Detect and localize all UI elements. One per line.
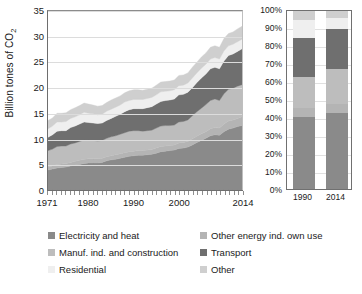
area-chart-x-tick (74, 191, 75, 195)
legend-swatch-icon-electricity-and-heat (48, 232, 55, 239)
percent-chart-y-tick-100: 100% (260, 5, 282, 15)
area-chart-x-tick (102, 191, 103, 195)
legend-column-right: Other energy ind. own useTransportOther (200, 228, 360, 279)
legend-label-other: Other (211, 264, 235, 275)
area-chart-x-tick (184, 191, 185, 195)
area-chart-plot-area (47, 10, 243, 190)
legend-label-electricity-and-heat: Electricity and heat (59, 230, 139, 241)
area-chart-gridline (48, 37, 242, 38)
percent-chart-x-tick-label-1990: 1990 (293, 192, 312, 202)
area-chart-y-axis-title: Billion tones of CO2 (4, 8, 18, 138)
area-chart-x-tick-label-1971: 1971 (36, 197, 57, 208)
legend-item-other-energy-ind-own-use[interactable]: Other energy ind. own use (200, 228, 360, 243)
legend-label-residential: Residential (59, 264, 106, 275)
area-chart-x-tick (52, 191, 53, 195)
area-chart-x-tick-labels: 19711980199020002014 (20, 197, 270, 211)
legend-item-other[interactable]: Other (200, 262, 360, 277)
percent-chart-panel: 0%10%20%30%40%50%60%70%80%90%100% 199020… (250, 0, 362, 218)
area-chart-y-tick-30: 30 (33, 30, 44, 41)
area-chart-x-tick (175, 191, 176, 195)
area-chart-x-tick (197, 191, 198, 195)
legend-item-residential[interactable]: Residential (48, 262, 198, 277)
area-chart-x-tick (179, 191, 180, 195)
percent-chart-x-tick-label-2014: 2014 (326, 192, 345, 202)
percent-chart-y-tick-labels: 0%10%20%30%40%50%60%70%80%90%100% (250, 10, 282, 190)
percent-chart-plot-area (286, 10, 352, 190)
area-chart-gridline (48, 140, 242, 141)
area-chart-x-tick (124, 191, 125, 195)
legend-swatch-icon-manuf-ind-and-construction (48, 249, 55, 256)
area-chart-x-tick (56, 191, 57, 195)
area-chart-y-tick-15: 15 (33, 107, 44, 118)
area-chart-gridline (48, 11, 242, 12)
area-chart-y-axis-title-subscript: 2 (9, 29, 18, 33)
area-chart-y-tick-35: 35 (33, 5, 44, 16)
percent-bar-1990 (293, 10, 315, 189)
area-chart-x-tick (211, 191, 212, 195)
percent-bar-segment-other (293, 10, 315, 20)
area-chart-x-tick (143, 191, 144, 195)
area-chart-x-tick (161, 191, 162, 195)
legend-label-transport: Transport (211, 247, 251, 258)
area-chart-x-tick (202, 191, 203, 195)
area-chart-x-tick-label-1980: 1980 (77, 197, 98, 208)
area-chart-x-tick (83, 191, 84, 195)
area-chart-x-tick (106, 191, 107, 195)
legend-swatch-icon-other (200, 266, 207, 273)
percent-chart-y-tick-40: 40% (265, 113, 282, 123)
percent-bar-segment-other (326, 10, 348, 18)
percent-bar-2014 (326, 10, 348, 189)
area-chart-x-tick (229, 191, 230, 195)
area-chart-x-tick (65, 191, 66, 195)
area-chart-x-tick (220, 191, 221, 195)
percent-chart-y-tick-0: 0% (270, 185, 282, 195)
area-chart-x-tick (166, 191, 167, 195)
area-chart-x-tick (120, 191, 121, 195)
legend-item-electricity-and-heat[interactable]: Electricity and heat (48, 228, 198, 243)
legend-item-manuf-ind-and-construction[interactable]: Manuf. ind. and construction (48, 245, 198, 260)
area-chart-x-tick (115, 191, 116, 195)
area-chart-x-tick (61, 191, 62, 195)
legend-column-left: Electricity and heatManuf. ind. and cons… (48, 228, 198, 279)
area-chart-x-tick (238, 191, 239, 195)
percent-bar-segment-electricity-and-heat (293, 117, 315, 189)
legend-label-other-energy-ind-own-use: Other energy ind. own use (211, 230, 322, 241)
area-chart-gridline (48, 88, 242, 89)
percent-bar-segment-residential (293, 20, 315, 38)
percent-chart-x-tick-labels: 19902014 (286, 192, 352, 206)
area-chart-gridline (48, 165, 242, 166)
area-chart-x-tick (134, 191, 135, 195)
area-chart-x-tick (243, 191, 244, 195)
area-chart-x-tick (152, 191, 153, 195)
area-chart-x-tick (188, 191, 189, 195)
area-chart-x-tick (79, 191, 80, 195)
area-chart-x-tick (70, 191, 71, 195)
area-chart-x-tick (207, 191, 208, 195)
percent-bar-segment-manuf-ind-and-construction (326, 69, 348, 103)
area-chart-gridline (48, 114, 242, 115)
area-chart-y-tick-20: 20 (33, 82, 44, 93)
percent-bar-segment-other-energy-ind-own-use (293, 108, 315, 117)
percent-chart-y-tick-20: 20% (265, 149, 282, 159)
area-chart-x-tick-label-2000: 2000 (169, 197, 190, 208)
area-chart-x-tick (234, 191, 235, 195)
percent-bar-segment-transport (293, 38, 315, 78)
percent-bar-segment-electricity-and-heat (326, 113, 348, 189)
legend-swatch-icon-other-energy-ind-own-use (200, 232, 207, 239)
area-chart-series-group (48, 11, 242, 190)
area-chart-y-tick-0: 0 (39, 185, 44, 196)
legend-item-transport[interactable]: Transport (200, 245, 360, 260)
percent-chart-y-tick-50: 50% (265, 95, 282, 105)
area-chart-x-tick (147, 191, 148, 195)
area-chart-y-tick-10: 10 (33, 133, 44, 144)
area-chart-x-tick (47, 191, 48, 195)
percent-bar-segment-transport (326, 29, 348, 70)
area-chart-x-tick (111, 191, 112, 195)
percent-chart-y-tick-80: 80% (265, 41, 282, 51)
area-chart-y-axis-title-text: Billion tones of CO (4, 33, 15, 118)
legend-swatch-icon-residential (48, 266, 55, 273)
area-chart-x-tick (156, 191, 157, 195)
area-chart-x-tick (93, 191, 94, 195)
area-chart-x-tick (193, 191, 194, 195)
percent-chart-y-tick-70: 70% (265, 59, 282, 69)
